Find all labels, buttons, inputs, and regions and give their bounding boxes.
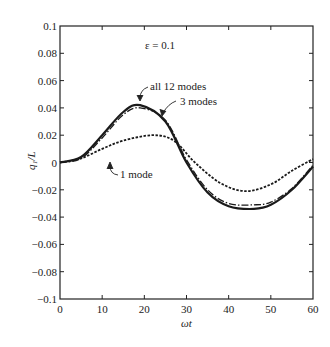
y-tick-label: −0.1 <box>37 293 57 305</box>
x-tick-label: 10 <box>97 303 109 315</box>
x-tick-label: 0 <box>57 303 63 315</box>
x-tick-label: 20 <box>139 303 151 315</box>
label-1-mode: 1 mode <box>120 168 153 180</box>
series-group <box>60 105 313 209</box>
annotation-arrows <box>107 87 176 175</box>
x-tick-label: 50 <box>265 303 277 315</box>
y-tick-label: 0.04 <box>38 102 58 114</box>
y-tick-label: −0.04 <box>32 211 58 223</box>
y-axis-label: q₁/L <box>25 152 37 171</box>
y-tick-label: −0.06 <box>32 238 58 250</box>
y-tick-label: 0.08 <box>38 47 58 59</box>
y-tick-label: 0.1 <box>43 20 57 32</box>
y-tick-label: 0 <box>52 157 58 169</box>
label-3-modes: 3 modes <box>180 95 217 107</box>
plot-frame: 0102030405060−0.1−0.08−0.06−0.04−0.0200.… <box>32 20 319 315</box>
y-tick-label: −0.02 <box>32 184 57 196</box>
series-line-all-12-modes <box>60 105 313 209</box>
epsilon-annotation: ε = 0.1 <box>145 39 175 51</box>
y-tick-label: 0.06 <box>38 75 58 87</box>
y-tick-label: 0.02 <box>38 129 57 141</box>
x-axis-label: ωt <box>181 317 193 329</box>
chart: 0102030405060−0.1−0.08−0.06−0.04−0.0200.… <box>0 0 330 347</box>
series-line-3-modes <box>60 108 313 205</box>
x-tick-label: 60 <box>308 303 320 315</box>
y-tick-label: −0.08 <box>32 266 58 278</box>
x-tick-label: 40 <box>223 303 235 315</box>
label-all-12-modes: all 12 modes <box>150 80 206 92</box>
x-tick-label: 30 <box>181 303 193 315</box>
